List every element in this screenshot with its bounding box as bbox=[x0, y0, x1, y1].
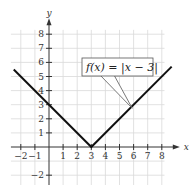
function-label-callout: f(x) = |x − 3| bbox=[82, 58, 158, 108]
y-axis-label: y bbox=[46, 8, 53, 18]
function-label: f(x) = |x − 3| bbox=[85, 61, 158, 75]
y-tick-label: 6 bbox=[38, 57, 44, 67]
x-axis-label: x bbox=[184, 142, 189, 152]
x-tick-label: 6 bbox=[131, 151, 137, 161]
x-tick-label: 2 bbox=[74, 151, 80, 161]
x-tick-label: 8 bbox=[159, 151, 165, 161]
chart: xy−2−112345678−212345678 f(x) = |x − 3| bbox=[0, 0, 194, 185]
y-tick-label: 3 bbox=[38, 100, 44, 110]
y-tick-label: 8 bbox=[38, 29, 44, 39]
grid bbox=[11, 30, 165, 185]
y-tick-label: −2 bbox=[31, 170, 44, 180]
y-tick-label: 1 bbox=[38, 128, 44, 138]
x-tick-label: 4 bbox=[103, 151, 109, 161]
y-tick-label: 2 bbox=[38, 114, 44, 124]
x-tick-label: −1 bbox=[28, 151, 41, 161]
y-axis-arrow-icon bbox=[47, 18, 52, 25]
y-tick-label: 5 bbox=[38, 72, 44, 82]
callout-pointer bbox=[100, 75, 132, 108]
x-tick-label: 1 bbox=[60, 151, 66, 161]
x-tick-label: 3 bbox=[88, 151, 94, 161]
x-axis-arrow-icon bbox=[173, 145, 180, 150]
x-tick-label: 7 bbox=[145, 151, 151, 161]
y-tick-label: 7 bbox=[38, 43, 44, 53]
x-tick-label: 5 bbox=[117, 151, 123, 161]
x-tick-label: −2 bbox=[14, 151, 27, 161]
